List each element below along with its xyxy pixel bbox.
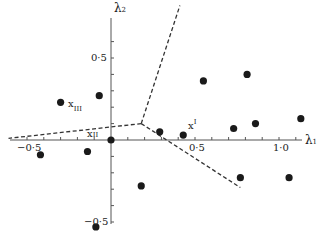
axes	[10, 18, 302, 224]
data-point	[297, 115, 304, 122]
data-point	[57, 99, 64, 106]
marker-label-II: xII	[87, 129, 98, 139]
x-tick-label-pos: 0·5	[189, 143, 205, 153]
data-point	[285, 174, 292, 181]
data-point	[138, 182, 145, 189]
data-point	[237, 174, 244, 181]
decision-boundary	[141, 124, 240, 188]
y-tick-label-pos: 0·5	[91, 53, 107, 63]
data-point	[84, 148, 91, 155]
scatter-plot	[0, 0, 319, 231]
marker-label-I: xI	[188, 121, 196, 131]
y-tick-label-neg: −0·5	[84, 217, 108, 227]
points	[37, 71, 305, 231]
data-point	[252, 120, 259, 127]
x-axis-title: λ1	[305, 134, 317, 146]
data-point	[156, 128, 163, 135]
data-point	[107, 136, 114, 143]
decision-boundary	[141, 6, 180, 124]
data-point	[243, 71, 250, 78]
boundaries	[9, 6, 241, 188]
x-tick-label-neg: −0·5	[17, 143, 41, 153]
data-point	[180, 131, 187, 138]
data-point	[96, 92, 103, 99]
y-axis-title: λ2	[114, 2, 126, 14]
data-point	[230, 125, 237, 132]
marker-label-III: xIII	[68, 99, 82, 109]
x-tick-label-one: 1·0	[273, 143, 289, 153]
data-point	[200, 77, 207, 84]
decision-boundary	[9, 124, 142, 139]
